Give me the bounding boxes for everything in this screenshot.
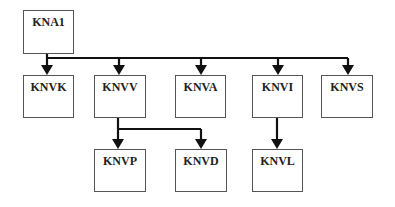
nodes-layer: KNA1KNVKKNVVKNVAKNVIKNVSKNVPKNVDKNVL — [24, 11, 373, 192]
node-label: KNVS — [330, 80, 364, 94]
node-label: KNVI — [262, 80, 294, 94]
node-knva: KNVA — [176, 76, 226, 118]
hierarchy-diagram: KNA1KNVKKNVVKNVAKNVIKNVSKNVPKNVDKNVL — [0, 0, 395, 207]
arrowhead-icon — [272, 65, 284, 75]
arrowhead-icon — [113, 65, 125, 75]
node-knvd: KNVD — [176, 150, 227, 192]
node-label: KNVA — [184, 80, 218, 94]
arrowhead-icon — [41, 65, 53, 75]
node-knvp: KNVP — [95, 150, 146, 192]
node-label: KNVD — [183, 154, 219, 168]
node-label: KNA1 — [32, 15, 65, 29]
node-label: KNVK — [31, 80, 68, 94]
node-knvv: KNVV — [95, 76, 146, 118]
node-label: KNVP — [103, 154, 137, 168]
arrowhead-icon — [271, 139, 283, 149]
node-kna1: KNA1 — [24, 11, 74, 54]
node-knvl: KNVL — [253, 150, 303, 192]
node-label: KNVV — [102, 80, 138, 94]
node-label: KNVL — [260, 154, 295, 168]
arrowhead-icon — [195, 139, 207, 149]
arrowhead-icon — [195, 65, 207, 75]
node-knvk: KNVK — [24, 76, 74, 118]
arrowhead-icon — [112, 139, 124, 149]
arrowhead-icon — [342, 65, 354, 75]
node-knvs: KNVS — [322, 76, 373, 118]
node-knvi: KNVI — [253, 76, 303, 118]
